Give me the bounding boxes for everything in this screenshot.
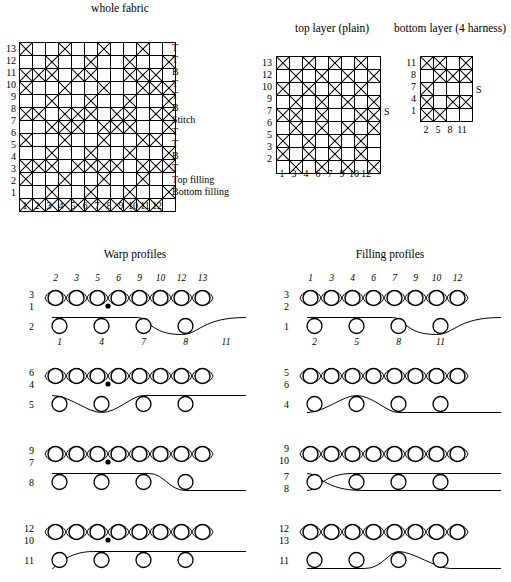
col-label: 6 bbox=[79, 200, 91, 211]
col-label: 2 bbox=[31, 200, 43, 211]
weave-cell-filled bbox=[124, 69, 137, 82]
weave-cell-empty bbox=[59, 147, 72, 160]
weave-cell-empty bbox=[124, 160, 137, 173]
profile-top-label: 7 bbox=[385, 274, 405, 284]
row-label: 4 bbox=[411, 93, 416, 104]
weave-cell-filled bbox=[368, 70, 381, 83]
profile-bottom-label: 11 bbox=[431, 338, 451, 348]
weave-cell-empty bbox=[342, 57, 355, 70]
profile-left-label: 11 bbox=[263, 556, 289, 566]
weave-cell-filled bbox=[277, 83, 290, 96]
top-layer-title: top layer (plain) bbox=[272, 22, 392, 34]
profile-left-label: 13 bbox=[263, 536, 289, 546]
weave-cell-filled bbox=[137, 134, 150, 147]
weave-cell-empty bbox=[20, 95, 33, 108]
weave-cell-empty bbox=[342, 135, 355, 148]
weave-cell-empty bbox=[111, 82, 124, 95]
bottom-layer-stitch-mark: S bbox=[476, 84, 482, 95]
weave-cell-empty bbox=[329, 109, 342, 122]
weave-cell-filled bbox=[46, 186, 59, 199]
col-label: 3 bbox=[43, 200, 55, 211]
weave-cell-filled bbox=[329, 57, 342, 70]
filling-profile: 564 bbox=[255, 350, 505, 428]
weave-cell-filled bbox=[342, 96, 355, 109]
weave-cell-filled bbox=[434, 70, 447, 83]
warp-profiles-title: Warp profiles bbox=[75, 248, 195, 260]
weave-cell-filled bbox=[329, 148, 342, 161]
weave-cell-filled bbox=[59, 82, 72, 95]
profile-left-label: 4 bbox=[8, 380, 34, 390]
weave-cell-filled bbox=[303, 57, 316, 70]
weave-cell-empty bbox=[72, 43, 85, 56]
weave-cell-filled bbox=[434, 57, 447, 70]
weave-cell-filled bbox=[150, 108, 163, 121]
weave-grid-row bbox=[421, 96, 473, 109]
row-label: 3 bbox=[267, 141, 272, 152]
weave-cell-filled bbox=[355, 57, 368, 70]
weave-cell-empty bbox=[316, 57, 329, 70]
side-code-label: Top filling bbox=[172, 175, 214, 185]
weave-cell-filled bbox=[85, 160, 98, 173]
weave-cell-empty bbox=[20, 186, 33, 199]
weave-cell-empty bbox=[137, 108, 150, 121]
col-label: 5 bbox=[67, 200, 79, 211]
weave-cell-filled bbox=[20, 173, 33, 186]
side-code-label: T bbox=[172, 139, 178, 149]
weave-grid-row bbox=[421, 70, 473, 83]
weave-cell-filled bbox=[150, 160, 163, 173]
profile-top-label: 3 bbox=[67, 274, 87, 284]
weave-cell-filled bbox=[290, 70, 303, 83]
col-label: 7 bbox=[91, 200, 103, 211]
weave-cell-empty bbox=[342, 148, 355, 161]
weave-grid bbox=[276, 56, 381, 174]
profile-left-label: 1 bbox=[8, 302, 34, 312]
weave-cell-filled bbox=[342, 70, 355, 83]
row-label: 6 bbox=[11, 127, 16, 138]
profile-bottom-label: 5 bbox=[347, 338, 367, 348]
weave-cell-empty bbox=[33, 95, 46, 108]
row-label: 9 bbox=[267, 93, 272, 104]
weave-cell-empty bbox=[447, 109, 460, 122]
col-label: 1 bbox=[19, 200, 31, 211]
weave-cell-filled bbox=[124, 186, 137, 199]
weave-cell-filled bbox=[303, 83, 316, 96]
warp-profile: 23569101213147811312 bbox=[0, 272, 250, 350]
weave-cell-filled bbox=[72, 108, 85, 121]
side-code-label: T bbox=[172, 55, 178, 65]
weave-cell-empty bbox=[150, 173, 163, 186]
weave-cell-empty bbox=[98, 186, 111, 199]
weave-cell-empty bbox=[368, 83, 381, 96]
side-code-label: T bbox=[172, 127, 178, 137]
row-label: 11 bbox=[406, 57, 416, 68]
weave-cell-filled bbox=[46, 56, 59, 69]
weave-grid-row bbox=[277, 96, 381, 109]
weave-cell-empty bbox=[46, 108, 59, 121]
profile-left-label: 2 bbox=[263, 302, 289, 312]
weave-cell-filled bbox=[290, 96, 303, 109]
weave-cell-filled bbox=[59, 43, 72, 56]
weave-cell-empty bbox=[111, 147, 124, 160]
weave-cell-empty bbox=[33, 56, 46, 69]
row-label: 5 bbox=[267, 129, 272, 140]
weave-cell-filled bbox=[290, 109, 303, 122]
weave-cell-filled bbox=[150, 69, 163, 82]
weave-grid-row bbox=[277, 122, 381, 135]
weave-cell-filled bbox=[277, 148, 290, 161]
weave-cell-filled bbox=[277, 109, 290, 122]
weave-cell-empty bbox=[33, 186, 46, 199]
col-label: 2 bbox=[420, 124, 432, 135]
profile-bottom-label: 7 bbox=[134, 338, 154, 348]
side-code-label: T bbox=[172, 91, 178, 101]
weave-cell-empty bbox=[111, 186, 124, 199]
weave-cell-filled bbox=[72, 121, 85, 134]
weave-cell-filled bbox=[150, 134, 163, 147]
filling-profiles-group: 13467910122581132156491078121311 bbox=[255, 272, 511, 582]
weave-cell-empty bbox=[329, 122, 342, 135]
weave-cell-filled bbox=[46, 147, 59, 160]
profile-left-label: 12 bbox=[263, 524, 289, 534]
weave-cell-empty bbox=[137, 95, 150, 108]
col-label: 9 bbox=[336, 168, 348, 179]
profile-bottom-label: 8 bbox=[176, 338, 196, 348]
weave-cell-empty bbox=[98, 56, 111, 69]
weave-cell-empty bbox=[98, 108, 111, 121]
